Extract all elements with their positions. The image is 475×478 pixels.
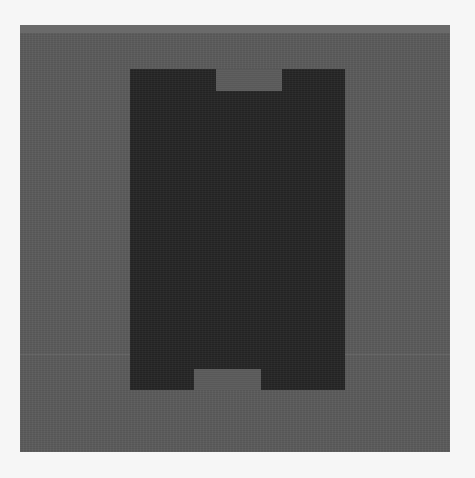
- bottom-notch: [194, 369, 261, 390]
- dark-rectangular-component: [130, 69, 345, 390]
- top-notch: [216, 69, 282, 91]
- photo-canvas: [0, 0, 475, 478]
- gray-background-panel: [20, 25, 450, 452]
- panel-top-edge: [20, 25, 450, 33]
